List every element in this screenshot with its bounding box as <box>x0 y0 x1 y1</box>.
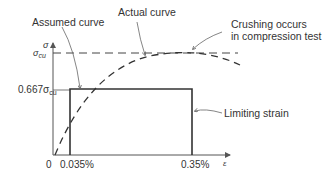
strain-limit-label: 0.35% <box>181 159 209 170</box>
y-axis-symbol: σ <box>43 40 49 50</box>
strain-start-label: 0.035% <box>60 159 94 170</box>
origin-label: 0 <box>46 159 52 170</box>
actual-curve-label: Actual curve <box>118 6 176 18</box>
coef-tick-label: 0.667σcu <box>18 84 57 96</box>
assumed-curve-block <box>70 89 192 155</box>
crushing-label-line2: in compression test <box>231 30 322 42</box>
stress-strain-diagram: Assumed curve Actual curve Crushing occu… <box>0 0 325 178</box>
crushing-label-line1: Crushing occurs <box>231 18 307 30</box>
actual-curve-pointer <box>137 22 145 55</box>
limiting-strain-label: Limiting strain <box>224 107 289 119</box>
assumed-curve-label: Assumed curve <box>32 16 105 28</box>
assumed-curve-pointer <box>62 27 80 88</box>
actual-curve <box>55 53 240 155</box>
crushing-pointer <box>193 32 222 49</box>
limiting-strain-pointer <box>195 110 222 113</box>
x-axis-symbol: ε <box>223 159 227 168</box>
